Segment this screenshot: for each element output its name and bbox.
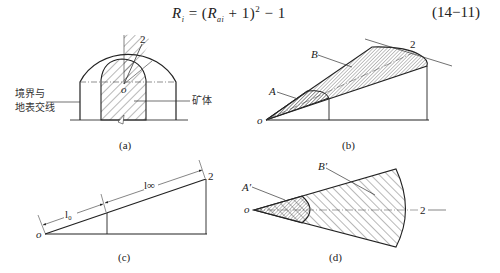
figure-c: l₀ l∞ 2 o (c) xyxy=(36,160,214,264)
label-boundary-line1: 境界与 xyxy=(15,87,45,99)
caption-a: (a) xyxy=(119,139,132,152)
figure-b: B A 2 o (b) xyxy=(257,38,452,152)
figure-d: A′ B′ 2 o (d) xyxy=(241,160,446,264)
point-2-a: 2 xyxy=(140,33,146,45)
label-A: A xyxy=(268,85,276,97)
caption-b: (b) xyxy=(342,139,355,152)
point-o-b: o xyxy=(257,114,263,126)
point-2-c: 2 xyxy=(208,170,214,182)
label-A-prime: A′ xyxy=(241,181,252,193)
caption-c: (c) xyxy=(118,251,131,264)
slope-line xyxy=(45,179,206,234)
label-ore-body: 矿体 xyxy=(192,94,212,106)
label-B-prime: B′ xyxy=(318,160,328,172)
label-B: B xyxy=(311,48,318,60)
point-2-d: 2 xyxy=(420,204,426,216)
point-o-c: o xyxy=(36,228,42,240)
point-2-b: 2 xyxy=(410,38,416,50)
point-o-a: o xyxy=(121,83,127,95)
figure-a: 境界与 地表交线 矿体 2 o (a) xyxy=(15,33,212,152)
cone-a xyxy=(254,196,310,223)
point-o-d: o xyxy=(244,203,250,215)
figure-canvas: 境界与 地表交线 矿体 2 o (a) B A 2 o (b) xyxy=(0,0,500,273)
label-linf: l∞ xyxy=(144,179,155,191)
label-l0: l₀ xyxy=(65,208,72,220)
label-boundary-line2: 地表交线 xyxy=(15,101,55,113)
caption-d: (d) xyxy=(329,251,342,264)
